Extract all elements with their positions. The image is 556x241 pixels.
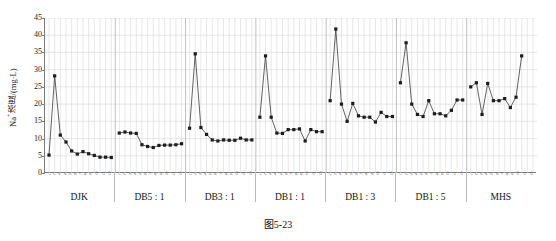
group-label-6: DB1 : 5	[395, 190, 465, 204]
group-label-4: DB1 : 1	[255, 190, 325, 204]
x-axis-tick-label: 8	[505, 172, 509, 176]
x-axis-tick-label: 11	[311, 171, 316, 176]
x-axis-tick-label: 5	[279, 172, 283, 176]
y-axis-tick-label: 30	[34, 66, 42, 74]
y-axis-tick-mark	[42, 104, 45, 105]
y-axis-tick-mark	[42, 35, 45, 36]
x-tick-group: 123456789101112	[188, 174, 252, 187]
y-axis-tick-mark	[42, 52, 45, 53]
figure-container: Na+浓度/(mg·L) 051015202530354045 12345678…	[0, 0, 556, 241]
x-axis-tick-label: 5	[138, 172, 142, 176]
x-axis-tick-label: 2	[263, 172, 267, 176]
x-axis-tick-label: 1	[188, 172, 192, 176]
x-axis-tick-label: 3	[198, 172, 202, 176]
y-axis-tick-label: 25	[34, 83, 42, 91]
x-tick-group: 123456789101112	[398, 174, 462, 187]
group-separator	[185, 172, 186, 202]
x-axis-tick-label: 1	[328, 172, 332, 176]
x-axis-tick-label: 9	[229, 172, 233, 176]
y-axis-tick-label: 10	[34, 135, 42, 143]
x-axis-tick-label: 1	[258, 172, 262, 176]
x-axis-tick-label: 12	[248, 171, 253, 176]
x-axis-tick-label: 2	[474, 172, 478, 176]
x-axis-tick-label: 4	[203, 172, 207, 176]
x-axis-tick-label: 3	[268, 172, 272, 176]
y-axis-tick-label: 20	[34, 100, 42, 108]
x-axis-tick-label: 2	[193, 172, 197, 176]
x-axis-tick-label: 12	[459, 171, 464, 176]
x-axis-tick-label: 12	[318, 171, 323, 176]
chart-svg	[45, 18, 537, 173]
x-axis-tick-label: 7	[289, 172, 293, 176]
x-axis-tick-label: 11	[241, 171, 246, 176]
x-axis-tick-label: 9	[159, 172, 163, 176]
x-axis-tick-label: 10	[304, 171, 309, 176]
group-separator	[395, 172, 396, 202]
x-tick-group: 123456789101112	[47, 174, 111, 187]
y-axis-title-text: Na+浓度/(mg·L)	[5, 69, 19, 128]
x-axis-tick-label: 8	[435, 172, 439, 176]
x-axis-tick-label: 9	[510, 172, 514, 176]
x-axis-tick-label: 7	[500, 172, 504, 176]
group-separator	[325, 172, 326, 202]
x-axis-tick-label: 8	[224, 172, 228, 176]
x-axis-tick-label: 8	[294, 172, 298, 176]
x-axis-tick-label: 4	[133, 172, 137, 176]
group-label-1: DJK	[44, 190, 114, 204]
x-axis-tick-label: 10	[234, 171, 239, 176]
x-axis-tick-label: 11	[101, 171, 106, 176]
x-axis-tick-label: 10	[164, 171, 169, 176]
x-axis-tick-label: 6	[73, 172, 77, 176]
x-axis-tick-label: 10	[375, 171, 380, 176]
group-label-3: DB3 : 1	[185, 190, 255, 204]
y-axis-title: Na+浓度/(mg·L)	[4, 38, 20, 158]
x-axis-tick-label: 6	[143, 172, 147, 176]
x-axis-tick-label: 11	[382, 171, 387, 176]
x-axis-tick-label: 11	[171, 171, 176, 176]
x-axis-tick-label: 7	[78, 172, 82, 176]
x-axis-tick-label: 5	[68, 172, 72, 176]
y-axis-tick-label: 45	[34, 14, 42, 22]
x-axis-tick-label: 3	[128, 172, 132, 176]
x-tick-group: 123456789101112	[117, 174, 181, 187]
figure-caption: 图5-23	[0, 216, 556, 231]
x-axis-tick-label: 4	[344, 172, 348, 176]
x-axis-tick-label: 4	[63, 172, 67, 176]
y-axis-tick-mark	[42, 121, 45, 122]
x-axis-tick-label: 12	[389, 171, 394, 176]
x-axis-tick-label: 7	[359, 172, 363, 176]
x-axis-tick-label: 10	[94, 171, 99, 176]
group-label-5: DB1 : 3	[325, 190, 395, 204]
x-axis-tick-label: 2	[404, 172, 408, 176]
x-axis-tick-label: 6	[284, 172, 288, 176]
x-axis-tick-label: 1	[47, 172, 51, 176]
x-axis-group-labels: DJKDB5 : 1DB3 : 1DB1 : 1DB1 : 3DB1 : 5MH…	[44, 190, 536, 208]
x-axis-tick-label: 4	[484, 172, 488, 176]
plot-area: 051015202530354045	[44, 18, 536, 173]
y-axis-tick-mark	[42, 70, 45, 71]
y-axis-tick-label: 15	[34, 117, 42, 125]
y-axis-tick-label: 35	[34, 48, 42, 56]
group-separator	[255, 172, 256, 202]
x-axis-tick-label: 12	[178, 171, 183, 176]
x-axis-tick-label: 6	[354, 172, 358, 176]
y-axis-tick-mark	[42, 87, 45, 88]
x-axis-tick-label: 9	[440, 172, 444, 176]
x-axis-tick-label: 12	[529, 171, 534, 176]
x-axis-tick-label: 11	[522, 171, 527, 176]
y-axis-tick-mark	[42, 156, 45, 157]
x-tick-group: 123456789101112	[258, 174, 322, 187]
group-separator	[114, 172, 115, 202]
group-separator	[466, 172, 467, 202]
x-axis-tick-label: 6	[495, 172, 499, 176]
x-axis-tick-label: 4	[414, 172, 418, 176]
x-axis-tick-label: 5	[349, 172, 353, 176]
x-axis-tick-label: 10	[515, 171, 520, 176]
y-axis-tick-mark	[42, 18, 45, 19]
x-axis-tick-label: 1	[469, 172, 473, 176]
x-axis-tick-label: 9	[370, 172, 374, 176]
x-axis-tick-label: 7	[219, 172, 223, 176]
x-axis-tick-label: 5	[419, 172, 423, 176]
y-axis-tick-mark	[42, 139, 45, 140]
x-axis-tick-label: 3	[409, 172, 413, 176]
